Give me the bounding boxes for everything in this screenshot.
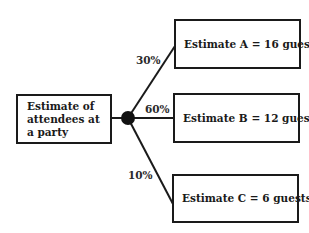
probability-label-a: 30% <box>136 54 161 66</box>
outcome-box-b: Estimate B = 12 guests <box>173 93 300 143</box>
probability-label-c: 10% <box>128 169 153 181</box>
edge-to-estimate-c <box>128 118 173 204</box>
probability-label-b: 60% <box>145 103 170 115</box>
outcome-box-a: Estimate A = 16 guests <box>174 19 301 69</box>
root-box: Estimate of attendees at a party <box>16 94 112 144</box>
chance-node-icon <box>121 111 135 125</box>
outcome-box-c: Estimate C = 6 guests <box>172 174 299 223</box>
outcome-label-c: Estimate C = 6 guests <box>182 192 309 205</box>
outcome-label-b: Estimate B = 12 guests <box>183 112 309 125</box>
probability-tree-diagram: Estimate of attendees at a party 30% 60%… <box>0 0 309 233</box>
root-label: Estimate of attendees at a party <box>27 100 106 139</box>
outcome-label-a: Estimate A = 16 guests <box>184 38 309 51</box>
